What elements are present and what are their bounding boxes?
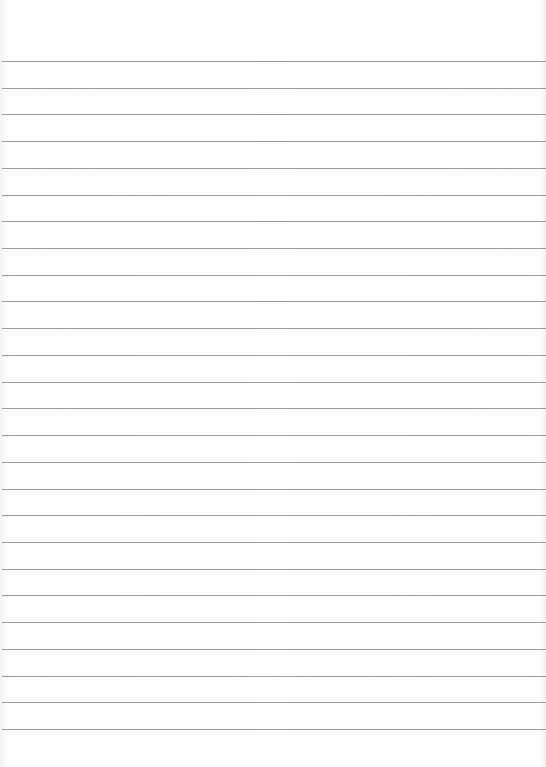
ruled-line (2, 221, 546, 222)
ruled-line (2, 676, 546, 677)
ruled-line (2, 248, 546, 249)
ruled-line (2, 729, 546, 730)
ruled-line (2, 301, 546, 302)
ruled-line (2, 622, 546, 623)
ruled-line (2, 408, 546, 409)
ruled-line (2, 141, 546, 142)
ruled-line (2, 195, 546, 196)
ruled-line (2, 569, 546, 570)
ruled-line (2, 168, 546, 169)
ruled-line (2, 382, 546, 383)
ruled-line (2, 462, 546, 463)
ruled-line (2, 275, 546, 276)
ruled-line (2, 515, 546, 516)
ruled-line (2, 114, 546, 115)
ruled-line (2, 702, 546, 703)
ruled-line (2, 61, 546, 62)
ruled-line (2, 595, 546, 596)
ruled-line (2, 355, 546, 356)
ruled-line (2, 328, 546, 329)
ruled-line (2, 649, 546, 650)
lined-paper (0, 0, 546, 767)
ruled-line (2, 88, 546, 89)
ruled-line (2, 489, 546, 490)
ruled-line (2, 435, 546, 436)
ruled-line (2, 542, 546, 543)
